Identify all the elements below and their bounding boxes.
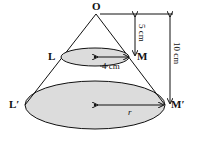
- point-label-l: L: [48, 51, 55, 62]
- total-height-label: 10 cm: [172, 42, 181, 64]
- apex-label-o: O: [92, 1, 101, 12]
- point-label-l-prime: L′: [9, 99, 19, 110]
- point-label-m: M: [137, 51, 147, 62]
- big-radius-label: r: [128, 108, 132, 117]
- big-center-dot: [94, 104, 96, 106]
- small-center-dot: [94, 56, 96, 58]
- cone-diagram: [0, 0, 201, 141]
- small-radius-label: 4 cm: [102, 62, 120, 71]
- small-height-label: 5 cm: [137, 24, 146, 42]
- point-label-m-prime: M′: [171, 99, 184, 110]
